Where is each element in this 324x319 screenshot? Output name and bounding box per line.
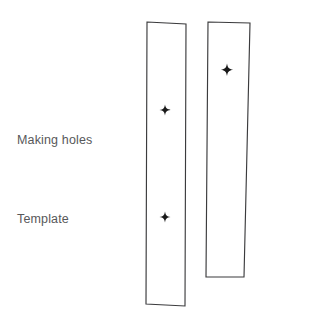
template-strip-left <box>146 22 186 306</box>
workpiece-strip-right <box>206 22 250 277</box>
figure-canvas: Making holes Template <box>0 0 324 319</box>
caption-template: Template <box>17 213 69 226</box>
caption-making-holes: Making holes <box>17 134 92 147</box>
hole-template-diagram <box>0 0 324 319</box>
